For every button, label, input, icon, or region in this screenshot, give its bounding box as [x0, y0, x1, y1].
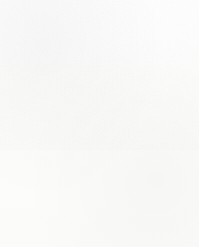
- x-axis-label: x: [178, 198, 186, 213]
- x-tick-label-4: 4: [118, 209, 122, 217]
- x-tick-label-2: 2: [63, 209, 67, 217]
- x-tick-label-5: 5: [146, 209, 150, 217]
- point-label-a: A: [60, 191, 67, 200]
- x-tick-label-1: 1: [36, 209, 40, 217]
- plot-canvas: [0, 0, 199, 247]
- y-tick-label-2: 2: [13, 142, 17, 150]
- y-tick-label-4: 4: [13, 83, 17, 91]
- y-tick-label-1: 1: [13, 171, 17, 179]
- y-axis: [20, 14, 23, 243]
- x-tick-label-3: 3: [91, 209, 95, 217]
- point-label-b: B: [106, 191, 112, 200]
- y-tick-label-6: 6: [13, 25, 17, 33]
- y-tick-label-0: 0: [13, 201, 17, 209]
- parabola-figure: 6 5 4 3 2 1 0 1 2 3 4 5 y x A B: [0, 0, 199, 247]
- y-tick-label-3: 3: [13, 113, 17, 121]
- y-tick-label-5: 5: [13, 54, 17, 62]
- y-axis-label: y: [12, 1, 19, 16]
